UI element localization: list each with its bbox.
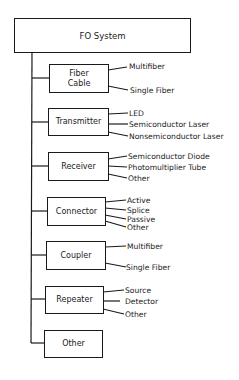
- connector-lines: [0, 0, 239, 380]
- root-label: FO System: [80, 31, 126, 41]
- component-box-connector: Connector: [47, 197, 106, 226]
- root-box-fo-system: FO System: [14, 18, 191, 53]
- component-box-transmitter: Transmitter: [48, 108, 109, 136]
- component-box-coupler: Coupler: [46, 241, 106, 270]
- component-box-other: Other: [44, 330, 103, 358]
- leaf-transmitter-led: LED: [129, 109, 144, 118]
- leaf-receiver-photomultiplier-tube: Photomultiplier Tube: [128, 163, 206, 172]
- component-box-fiber-cable: Fiber Cable: [49, 64, 109, 93]
- leaf-repeater-other: Other: [125, 310, 147, 319]
- component-label: Cable: [68, 79, 91, 89]
- component-label: Repeater: [56, 295, 92, 305]
- leaf-coupler-single-fiber: Single Fiber: [126, 263, 170, 272]
- leaf-connector-other: Other: [127, 223, 149, 232]
- leaf-coupler-multifiber: Multifiber: [127, 242, 163, 251]
- component-label: Transmitter: [56, 117, 102, 127]
- leaf-connector-splice: Splice: [127, 206, 150, 215]
- leaf-receiver-other: Other: [128, 174, 150, 183]
- leaf-transmitter-nonsemiconductor-laser: Nonsemiconductor Laser: [129, 132, 224, 141]
- component-label: Coupler: [60, 251, 91, 261]
- component-label: Fiber: [69, 69, 89, 79]
- leaf-receiver-semiconductor-diode: Semiconductor Diode: [128, 152, 210, 161]
- leaf-fiber-cable-multifiber: Multifiber: [129, 62, 165, 71]
- component-box-repeater: Repeater: [45, 286, 104, 314]
- component-box-receiver: Receiver: [48, 152, 109, 181]
- leaf-connector-active: Active: [127, 196, 151, 205]
- leaf-fiber-cable-single-fiber: Single Fiber: [130, 86, 174, 95]
- component-label: Connector: [56, 207, 97, 217]
- leaf-transmitter-semiconductor-laser: Semiconductor Laser: [129, 120, 209, 129]
- component-label: Other: [62, 339, 85, 349]
- leaf-repeater-detector: Detector: [125, 297, 158, 306]
- component-label: Receiver: [61, 162, 96, 172]
- leaf-repeater-source: Source: [125, 286, 151, 295]
